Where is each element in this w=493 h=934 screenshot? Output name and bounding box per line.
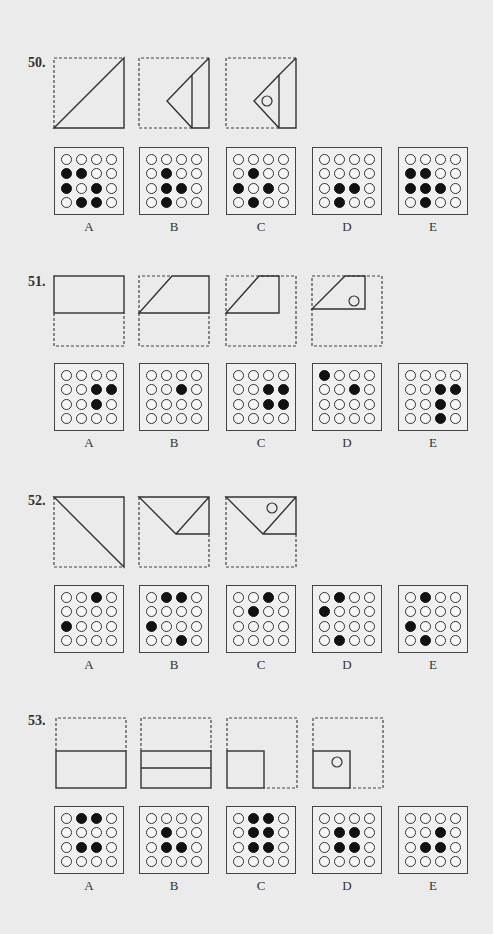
empty-hole-icon — [61, 384, 72, 395]
filled-hole-icon — [319, 606, 330, 617]
answer-option-c[interactable] — [226, 806, 296, 874]
empty-hole-icon — [319, 413, 330, 424]
filled-hole-icon — [176, 635, 187, 646]
filled-hole-icon — [91, 384, 102, 395]
empty-hole-icon — [191, 399, 202, 410]
empty-hole-icon — [176, 399, 187, 410]
hole-grid — [317, 590, 377, 648]
answer-option-a[interactable] — [54, 363, 124, 431]
empty-hole-icon — [76, 183, 87, 194]
empty-hole-icon — [233, 197, 244, 208]
filled-hole-icon — [334, 592, 345, 603]
empty-hole-icon — [61, 842, 72, 853]
option-label: A — [54, 878, 124, 894]
empty-hole-icon — [191, 592, 202, 603]
empty-hole-icon — [106, 842, 117, 853]
empty-hole-icon — [161, 856, 172, 867]
empty-hole-icon — [248, 384, 259, 395]
empty-hole-icon — [146, 197, 157, 208]
empty-hole-icon — [349, 621, 360, 632]
empty-hole-icon — [248, 154, 259, 165]
empty-hole-icon — [334, 154, 345, 165]
answer-option-e[interactable] — [398, 363, 468, 431]
filled-hole-icon — [76, 813, 87, 824]
empty-hole-icon — [278, 197, 289, 208]
fold-step-3 — [226, 58, 296, 128]
answer-option-b[interactable] — [139, 806, 209, 874]
empty-hole-icon — [161, 635, 172, 646]
answer-option-d[interactable] — [312, 363, 382, 431]
filled-hole-icon — [233, 183, 244, 194]
answer-option-a[interactable] — [54, 806, 124, 874]
filled-hole-icon — [420, 592, 431, 603]
empty-hole-icon — [191, 168, 202, 179]
filled-hole-icon — [91, 842, 102, 853]
empty-hole-icon — [61, 370, 72, 381]
filled-hole-icon — [435, 183, 446, 194]
empty-hole-icon — [278, 635, 289, 646]
empty-hole-icon — [278, 813, 289, 824]
empty-hole-icon — [450, 621, 461, 632]
answer-option-b[interactable] — [139, 363, 209, 431]
empty-hole-icon — [349, 399, 360, 410]
filled-hole-icon — [435, 399, 446, 410]
empty-hole-icon — [76, 592, 87, 603]
empty-hole-icon — [146, 827, 157, 838]
empty-hole-icon — [61, 635, 72, 646]
answer-option-d[interactable] — [312, 147, 382, 215]
empty-hole-icon — [61, 606, 72, 617]
empty-hole-icon — [364, 168, 375, 179]
option-label: C — [226, 435, 296, 451]
filled-hole-icon — [420, 197, 431, 208]
answer-option-e[interactable] — [398, 585, 468, 653]
empty-hole-icon — [334, 606, 345, 617]
answer-option-d[interactable] — [312, 585, 382, 653]
answer-option-c[interactable] — [226, 585, 296, 653]
filled-hole-icon — [263, 384, 274, 395]
empty-hole-icon — [435, 606, 446, 617]
hole-grid — [231, 811, 291, 869]
empty-hole-icon — [319, 813, 330, 824]
filled-hole-icon — [420, 183, 431, 194]
empty-hole-icon — [364, 413, 375, 424]
answer-option-c[interactable] — [226, 363, 296, 431]
empty-hole-icon — [76, 606, 87, 617]
filled-hole-icon — [349, 842, 360, 853]
answer-option-b[interactable] — [139, 147, 209, 215]
hole-grid — [403, 590, 463, 648]
filled-hole-icon — [405, 168, 416, 179]
answer-option-a[interactable] — [54, 585, 124, 653]
hole-grid — [403, 368, 463, 426]
empty-hole-icon — [233, 399, 244, 410]
answer-option-d[interactable] — [312, 806, 382, 874]
answer-option-c[interactable] — [226, 147, 296, 215]
empty-hole-icon — [233, 413, 244, 424]
fold-step-2 — [139, 276, 209, 346]
empty-hole-icon — [435, 621, 446, 632]
filled-hole-icon — [334, 842, 345, 853]
empty-hole-icon — [364, 183, 375, 194]
filled-hole-icon — [61, 168, 72, 179]
answer-option-a[interactable] — [54, 147, 124, 215]
filled-hole-icon — [161, 827, 172, 838]
empty-hole-icon — [106, 856, 117, 867]
empty-hole-icon — [146, 813, 157, 824]
empty-hole-icon — [435, 370, 446, 381]
empty-hole-icon — [349, 592, 360, 603]
empty-hole-icon — [146, 413, 157, 424]
answer-option-b[interactable] — [139, 585, 209, 653]
empty-hole-icon — [106, 168, 117, 179]
empty-hole-icon — [106, 413, 117, 424]
empty-hole-icon — [450, 370, 461, 381]
hole-grid — [144, 152, 204, 210]
hole-grid — [403, 811, 463, 869]
fold-diagram-icon — [312, 276, 382, 346]
empty-hole-icon — [278, 154, 289, 165]
empty-hole-icon — [278, 413, 289, 424]
empty-hole-icon — [334, 370, 345, 381]
answer-option-e[interactable] — [398, 147, 468, 215]
answer-option-e[interactable] — [398, 806, 468, 874]
empty-hole-icon — [176, 413, 187, 424]
empty-hole-icon — [176, 370, 187, 381]
filled-hole-icon — [435, 827, 446, 838]
